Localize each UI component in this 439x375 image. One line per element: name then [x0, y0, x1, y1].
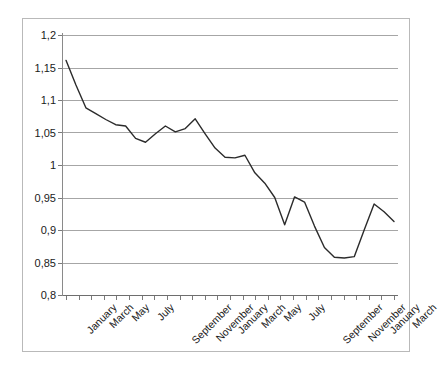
series-line-index — [66, 60, 394, 258]
